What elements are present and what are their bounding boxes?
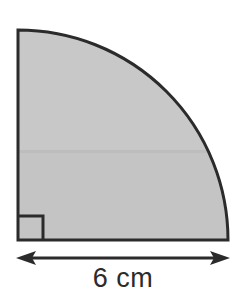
lower-tone-band	[0, 152, 246, 244]
dimension-label: 6 cm	[0, 263, 246, 293]
quarter-circle-diagram	[0, 0, 246, 300]
paper-seam-group	[0, 150, 246, 244]
geometry-figure: 6 cm	[0, 0, 246, 300]
